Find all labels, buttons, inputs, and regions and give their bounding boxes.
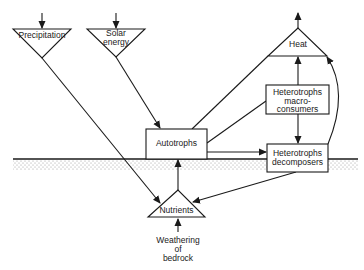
solar-label-line2: energy bbox=[87, 38, 145, 47]
decomposers-label-line2: decomposers bbox=[267, 158, 328, 167]
weathering-label-line3: bedrock bbox=[148, 254, 208, 263]
heat-label: Heat bbox=[268, 40, 328, 49]
edge-solar-autotrophs bbox=[116, 57, 160, 128]
macroconsumers-label-line3: consumers bbox=[266, 105, 329, 114]
nutrients-label: Nutrients bbox=[148, 206, 205, 215]
autotrophs-label: Autotrophs bbox=[146, 139, 207, 148]
edge-decomposers-nutrients bbox=[193, 172, 296, 202]
precipitation-label: Precipitation bbox=[13, 31, 71, 40]
edge-autotrophs-heat bbox=[192, 56, 268, 129]
edge-precipitation-nutrients bbox=[42, 58, 160, 203]
edge-autotrophs-macroconsumers bbox=[207, 101, 266, 143]
